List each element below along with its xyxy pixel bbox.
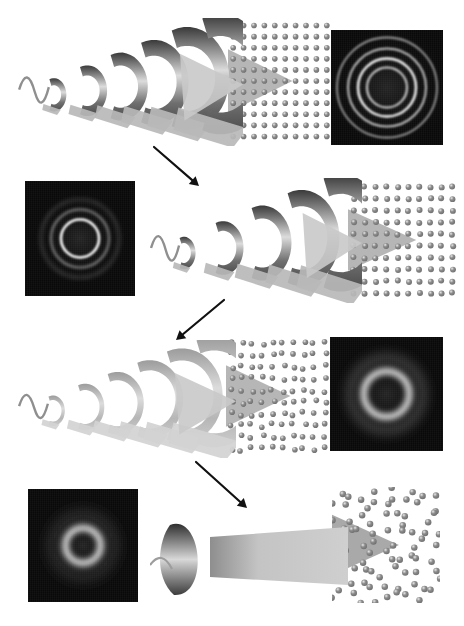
atomic-lattice-1 xyxy=(228,20,332,142)
wave-crest xyxy=(180,237,196,269)
wavefront-surface-1 xyxy=(18,18,243,146)
arrow-1 xyxy=(140,133,213,200)
atomic-lattice-3 xyxy=(226,337,330,455)
atomic-lattice-2 xyxy=(348,181,458,299)
wave-crest xyxy=(49,78,66,111)
wave-crest xyxy=(49,396,65,427)
wavefront-surface-3 xyxy=(18,340,236,458)
panel-noise-texture xyxy=(25,181,135,296)
arrow-2 xyxy=(162,286,238,354)
diffraction-panel-2 xyxy=(25,181,135,296)
arrow-3 xyxy=(182,448,261,522)
panel-noise-texture xyxy=(330,337,443,451)
panel-noise-texture xyxy=(28,489,138,602)
diffraction-panel-3 xyxy=(330,337,443,451)
diffraction-panel-4 xyxy=(28,489,138,602)
diffraction-panel-1 xyxy=(331,30,443,145)
figure-root xyxy=(0,0,464,626)
panel-noise-texture xyxy=(331,30,443,145)
